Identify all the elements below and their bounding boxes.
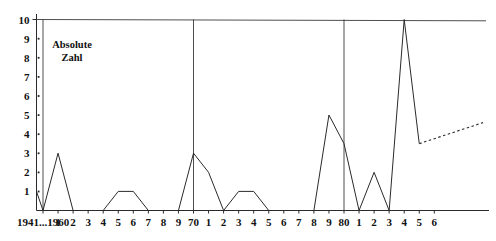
x-tick-label: 1: [356, 216, 362, 228]
y-tick-dot: [38, 38, 40, 40]
x-axis-tick-labels: 1941...19601234567897012345678980123456: [17, 216, 438, 228]
y-tick-dot: [38, 152, 40, 154]
y-tick-dot: [38, 95, 40, 97]
y-tick-label: 3: [24, 147, 30, 159]
y-tick-dot: [38, 191, 40, 193]
y-tick-label: 2: [24, 166, 30, 178]
x-tick-label: 70: [188, 216, 200, 228]
x-tick-label: 5: [266, 216, 272, 228]
x-tick-label: 4: [401, 216, 407, 228]
x-tick-label: 2: [70, 216, 76, 228]
x-tick-label: 1: [206, 216, 212, 228]
x-tick-label: 6: [131, 216, 137, 228]
x-tick-label: 1: [55, 216, 61, 228]
projection-dashed-line: [419, 123, 483, 144]
y-tick-label: 6: [24, 90, 30, 102]
y-tick-label: 9: [24, 33, 30, 45]
y-tick-label: 10: [19, 14, 31, 26]
y-tick-dot: [38, 133, 40, 135]
line-chart: 12345678910 1941...196012345678970123456…: [0, 0, 496, 241]
x-tick-label: 2: [371, 216, 377, 228]
x-tick-label: 4: [251, 216, 257, 228]
x-tick-label: 8: [161, 216, 167, 228]
x-tick-label: 6: [281, 216, 287, 228]
x-tick-label: 8: [311, 216, 317, 228]
y-tick-label: 7: [24, 71, 30, 83]
x-tick-label: 7: [296, 216, 302, 228]
chart-annotation-absolute: Absolute: [52, 39, 92, 50]
y-tick-dot: [38, 114, 40, 116]
y-tick-label: 1: [24, 185, 30, 197]
x-tick-label: 5: [116, 216, 122, 228]
y-tick-dot: [38, 76, 40, 78]
y-tick-dot: [38, 172, 40, 174]
x-tick-label: 9: [176, 216, 182, 228]
x-tick-label: 2: [221, 216, 227, 228]
gridline-horizontal-10: [37, 20, 487, 21]
y-tick-label: 4: [24, 128, 30, 140]
y-tick-label: 8: [24, 52, 30, 64]
chart-figure: 12345678910 1941...196012345678970123456…: [0, 0, 496, 241]
y-tick-label: 5: [24, 109, 30, 121]
x-tick-label: 5: [417, 216, 423, 228]
x-tick-label: 3: [386, 216, 392, 228]
x-tick-label: 7: [146, 216, 152, 228]
chart-axes: [37, 14, 490, 211]
x-tick-label: 3: [236, 216, 242, 228]
x-tick-label: 3: [85, 216, 91, 228]
data-series-line: [37, 20, 420, 211]
chart-annotation-zahl: Zahl: [61, 52, 82, 63]
x-tick-label: 80: [339, 216, 351, 228]
x-tick-label: 4: [100, 216, 106, 228]
x-tick-label: 1941...1960: [17, 216, 70, 228]
y-axis-tick-labels: 12345678910: [19, 14, 31, 198]
x-tick-label: 6: [432, 216, 438, 228]
x-tick-label: 9: [326, 216, 332, 228]
y-tick-dot: [38, 57, 40, 59]
